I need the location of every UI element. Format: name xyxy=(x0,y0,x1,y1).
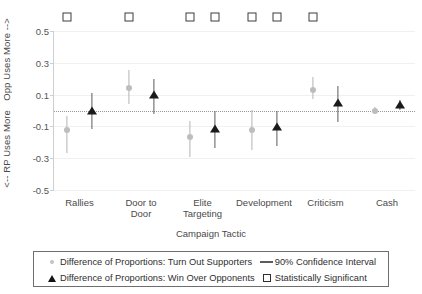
data-point-marker-circle xyxy=(64,127,70,133)
y-axis-tick-mark xyxy=(50,63,54,64)
x-axis-category-label: Rallies xyxy=(65,198,94,209)
statistically-significant-marker xyxy=(272,13,281,22)
x-axis-category-label: Door to Door xyxy=(125,198,156,219)
data-point-marker-triangle xyxy=(210,124,220,132)
gridline xyxy=(54,31,415,32)
statistically-significant-marker xyxy=(247,13,256,22)
legend-row: Difference of Proportions: Win Over Oppo… xyxy=(34,270,388,286)
open-square-icon xyxy=(259,274,275,283)
y-axis-label-upper: Opp Uses More --> xyxy=(1,18,12,101)
statistically-significant-marker xyxy=(309,13,318,22)
legend-item-statistically-significant: Statistically Significant xyxy=(255,273,388,283)
statistically-significant-marker xyxy=(186,13,195,22)
gridline xyxy=(54,126,415,127)
data-point-marker-triangle xyxy=(87,106,97,114)
data-point-marker-triangle xyxy=(395,101,405,109)
legend-label: Difference of Proportions: Turn Out Supp… xyxy=(60,257,252,267)
legend-label: Statistically Significant xyxy=(275,273,367,283)
zero-reference-line xyxy=(54,111,415,112)
gridline xyxy=(54,63,415,64)
y-axis-tick-label: 0.3 xyxy=(36,57,49,68)
y-axis-tick-mark xyxy=(50,31,54,32)
gridline xyxy=(54,190,415,191)
y-axis-tick-mark xyxy=(50,95,54,96)
y-axis-tick-mark xyxy=(50,190,54,191)
x-axis-category-label: Cash xyxy=(376,198,398,209)
data-point-marker-triangle xyxy=(333,99,343,107)
data-point-marker-circle xyxy=(372,108,378,114)
gridline xyxy=(54,158,415,159)
y-axis-tick-mark xyxy=(50,158,54,159)
plot-area: 0.50.30.1-0.1-0.3-0.5 xyxy=(53,12,415,195)
statistically-significant-marker xyxy=(63,13,72,22)
y-axis-tick-label: -0.5 xyxy=(33,185,49,196)
legend-item-turn-out-supporters: Difference of Proportions: Turn Out Supp… xyxy=(34,257,255,267)
line-segment-icon xyxy=(259,261,275,262)
data-point-marker-circle xyxy=(310,87,316,93)
statistically-significant-marker xyxy=(124,13,133,22)
legend-item-confidence-interval: 90% Confidence Interval xyxy=(255,257,388,267)
chart-legend: Difference of Proportions: Turn Out Supp… xyxy=(33,251,389,287)
x-axis-category-label: Criticism xyxy=(307,198,343,209)
legend-label: 90% Confidence Interval xyxy=(275,257,376,267)
y-axis-tick-mark xyxy=(50,126,54,127)
data-point-marker-triangle xyxy=(149,91,159,99)
chart-canvas: Opp Uses More --> <-- RP Uses More 0.50.… xyxy=(0,0,422,294)
x-axis-label: Campaign Tactic xyxy=(0,228,422,239)
y-axis-tick-label: -0.3 xyxy=(33,153,49,164)
circle-marker-icon xyxy=(44,260,60,265)
legend-label: Difference of Proportions: Win Over Oppo… xyxy=(60,273,255,283)
data-point-marker-triangle xyxy=(272,123,282,131)
data-point-marker-circle xyxy=(187,134,193,140)
y-axis-tick-label: -0.1 xyxy=(33,121,49,132)
x-axis-category-label: Elite Targeting xyxy=(183,198,222,219)
y-axis-tick-label: 0.1 xyxy=(36,89,49,100)
gridline xyxy=(54,95,415,96)
data-point-marker-circle xyxy=(126,85,132,91)
confidence-interval-bar xyxy=(66,116,67,153)
legend-item-win-over-opponents: Difference of Proportions: Win Over Oppo… xyxy=(34,273,255,283)
y-axis-tick-label: 0.5 xyxy=(36,26,49,37)
triangle-marker-icon xyxy=(44,275,60,282)
data-point-marker-circle xyxy=(249,127,255,133)
legend-row: Difference of Proportions: Turn Out Supp… xyxy=(34,254,388,270)
x-axis-category-label: Development xyxy=(236,198,292,209)
y-axis-label-lower: <-- RP Uses More xyxy=(1,110,12,188)
statistically-significant-marker xyxy=(211,13,220,22)
